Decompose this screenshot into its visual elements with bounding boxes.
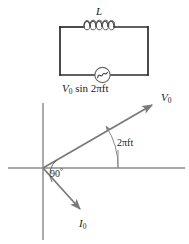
degree-symbol: ° <box>60 168 63 176</box>
figure-container: L V0 sin 2πft V0 I0 2πft 90° <box>0 0 189 244</box>
phasor-group <box>8 103 185 240</box>
source-voltage-label: V0 sin 2πft <box>62 83 109 96</box>
angle-label: 2πft <box>117 138 133 148</box>
current-phasor-label: I0 <box>79 218 86 231</box>
inductor-icon <box>84 20 115 30</box>
voltage-phasor-vector <box>43 105 152 168</box>
phase-difference-value: 90 <box>50 168 60 179</box>
voltage-phasor-label: V0 <box>161 92 171 105</box>
voltage-label-subscript: 0 <box>168 96 172 105</box>
current-label-subscript: 0 <box>83 222 87 231</box>
figure-canvas <box>0 0 189 244</box>
ac-source-icon <box>95 67 110 82</box>
voltage-label-prefix: V <box>161 91 168 103</box>
source-label-prefix: V <box>62 82 69 94</box>
phase-difference-label: 90° <box>50 169 63 179</box>
source-label-expression: sin 2πft <box>72 82 108 94</box>
circuit-group <box>60 20 148 82</box>
inductor-label: L <box>96 6 102 17</box>
